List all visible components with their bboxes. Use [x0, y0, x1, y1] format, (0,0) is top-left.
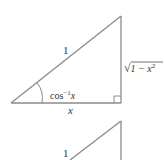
angle-label: cos−1x	[50, 89, 76, 101]
triangle-2-hypotenuse	[70, 121, 121, 160]
right-angle-marker	[114, 96, 121, 103]
triangle-1: 1 √1 − x2 cos−1x x	[11, 16, 163, 116]
angle-arc	[37, 83, 42, 104]
sqrt-exponent: 2	[152, 62, 156, 70]
triangle-2: 1	[63, 121, 121, 160]
opposite-side-label: √1 − x2	[124, 61, 156, 75]
angle-label-var: x	[70, 90, 76, 101]
angle-label-func: cos	[50, 90, 63, 101]
inverse-cosine-diagram: 1 √1 − x2 cos−1x x 1	[0, 0, 164, 160]
sqrt-body: 1 − x	[131, 63, 153, 74]
triangle-2-hypotenuse-label: 1	[63, 147, 69, 159]
hypotenuse-label: 1	[63, 44, 69, 56]
adjacent-label: x	[67, 104, 73, 116]
